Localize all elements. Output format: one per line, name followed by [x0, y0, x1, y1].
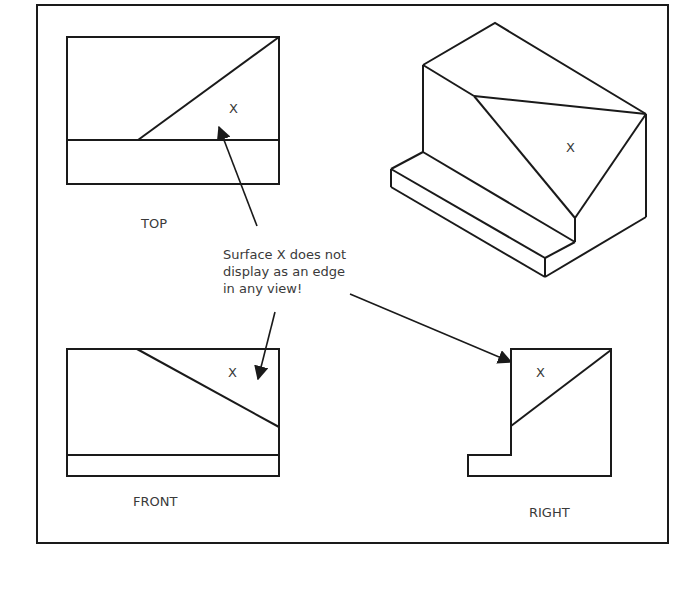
orthographic-projection-diagram: X TOP X Surface X does not display as an…	[0, 0, 696, 593]
arrow-to-front-view	[258, 312, 275, 379]
right-view-label: RIGHT	[529, 505, 570, 520]
right-view: X RIGHT	[468, 349, 611, 520]
front-view-surface-x: X	[228, 365, 237, 380]
isometric-view: X	[391, 23, 646, 277]
front-view-label: FRONT	[133, 494, 177, 509]
annotation-line-3: in any view!	[223, 281, 302, 296]
annotation-line-1: Surface X does not	[223, 247, 346, 262]
top-view-surface-x: X	[229, 101, 238, 116]
annotation-line-2: display as an edge	[223, 264, 345, 279]
arrow-to-right-view	[350, 294, 511, 362]
front-view: X FRONT	[67, 349, 279, 509]
arrow-to-top-view	[219, 127, 257, 226]
isometric-surface-x: X	[566, 140, 575, 155]
annotation-note: Surface X does not display as an edge in…	[223, 247, 346, 296]
drawing-frame	[37, 5, 668, 543]
right-view-surface-x: X	[536, 365, 545, 380]
top-view-label: TOP	[140, 216, 167, 231]
